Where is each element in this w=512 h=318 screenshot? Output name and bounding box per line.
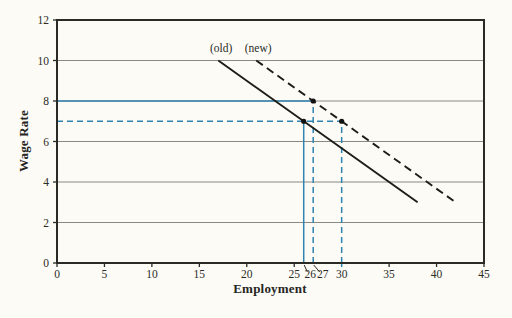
y-tick-label: 2 xyxy=(43,217,49,229)
x-tick-label: 45 xyxy=(478,268,490,280)
y-tick-label: 8 xyxy=(43,95,49,107)
x-tick-label: 15 xyxy=(194,268,206,280)
y-axis-title: Wage Rate xyxy=(16,110,32,172)
point-marker-27-8 xyxy=(311,98,316,103)
series-line-new xyxy=(256,61,455,203)
y-tick-label: 0 xyxy=(43,257,49,269)
wage-employment-chart: 0510152025354045024681012(old)(new)26273… xyxy=(0,0,512,318)
y-tick-label: 12 xyxy=(38,14,50,26)
x-tick-label: 5 xyxy=(102,268,108,280)
point-marker-26-7 xyxy=(301,119,306,124)
x-tick-label: 20 xyxy=(241,268,253,280)
x-tick-label: 35 xyxy=(383,268,395,280)
y-tick-label: 10 xyxy=(38,55,50,67)
curve-label-new: (new) xyxy=(245,42,272,55)
x-tick-label: 40 xyxy=(431,268,443,280)
x-tick-label: 0 xyxy=(54,268,60,280)
chart-canvas: 0510152025354045024681012(old)(new)26273… xyxy=(0,0,512,318)
y-tick-label: 4 xyxy=(43,176,49,188)
curve-label-old: (old) xyxy=(210,42,233,55)
y-tick-label: 6 xyxy=(43,136,49,148)
x-special-label-27: 27 xyxy=(317,268,329,280)
x-special-label-30: 30 xyxy=(336,268,348,280)
point-marker-30-7 xyxy=(339,119,344,124)
series-line-old xyxy=(218,61,417,203)
x-tick-label: 25 xyxy=(288,268,300,280)
x-tick-label: 10 xyxy=(146,268,158,280)
x-axis-title: Employment xyxy=(233,281,307,297)
